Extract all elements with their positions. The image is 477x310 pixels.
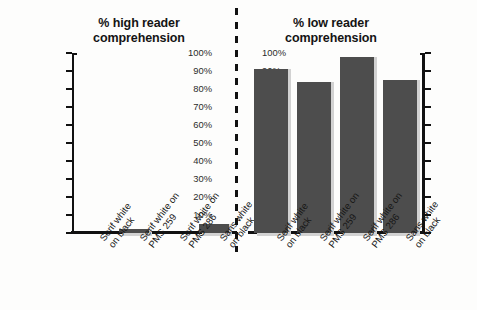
y-axis-tick [425,106,431,108]
y-axis-tick-label: 40% [193,156,212,166]
figure-root: % high reader comprehension % low reader… [0,0,477,310]
chart-title-right-line1: % low reader [256,16,406,31]
y-axis-tick-label: 30% [193,174,212,184]
y-axis-tick [66,88,72,90]
y-axis-tick [425,52,431,54]
y-axis-tick [425,142,431,144]
y-axis-tick [66,196,72,198]
y-axis-tick [66,178,72,180]
y-axis-tick [425,70,431,72]
y-axis-tick-label: 50% [193,138,212,148]
chart-title-right-line2: comprehension [256,31,406,46]
y-axis-tick-label: 100% [262,48,286,58]
y-axis-tick [66,214,72,216]
chart-title-right: % low reader comprehension [256,16,406,46]
y-axis-tick-label: 80% [193,84,212,94]
y-axis-spine-left [72,53,75,233]
y-axis-tick [66,142,72,144]
y-axis-tick [425,160,431,162]
y-axis-cap-top [420,53,425,55]
bar [254,69,288,233]
chart-title-left: % high reader comprehension [64,16,214,46]
chart-title-left-line1: % high reader [64,16,214,31]
y-axis-tick [66,124,72,126]
y-axis-tick [425,88,431,90]
y-axis-cap-bottom [72,231,77,233]
y-axis-tick-label: 90% [193,66,212,76]
y-axis-tick [66,106,72,108]
y-axis-tick [66,70,72,72]
y-axis-tick [66,160,72,162]
y-axis-cap-top [72,53,77,55]
y-axis-tick-label: 60% [193,120,212,130]
y-axis-tick [425,124,431,126]
y-axis-tick-label: 70% [193,102,212,112]
y-axis-tick-label: 100% [188,48,212,58]
chart-title-left-line2: comprehension [64,31,214,46]
y-axis-tick [425,178,431,180]
y-axis-tick [425,196,431,198]
